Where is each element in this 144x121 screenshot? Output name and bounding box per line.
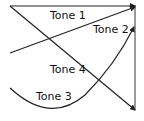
tone3-label: Tone 3 bbox=[35, 90, 72, 103]
tone2-label: Tone 2 bbox=[92, 23, 129, 36]
tone4-label: Tone 4 bbox=[49, 63, 86, 76]
tone-diagram: Tone 1 Tone 2 Tone 4 Tone 3 bbox=[0, 0, 144, 121]
tone1-label: Tone 1 bbox=[49, 9, 86, 22]
